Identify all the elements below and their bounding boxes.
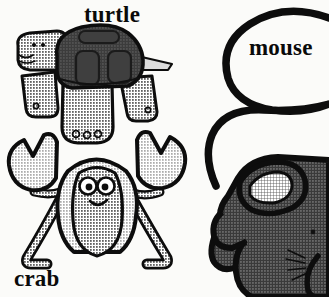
- turtle-shell-plate-right: [108, 51, 131, 83]
- turtle-belly-foot: [62, 84, 113, 143]
- label-turtle: turtle: [84, 3, 140, 26]
- illustration-page: turtle crab mouse: [0, 0, 329, 297]
- label-crab: crab: [14, 267, 60, 290]
- mouse-eye: [311, 230, 316, 235]
- turtle-shell-plate-top: [79, 31, 119, 43]
- label-mouse: mouse: [249, 36, 313, 59]
- turtle-shell-plate-left: [76, 51, 99, 85]
- turtle-front-leg: [22, 72, 58, 117]
